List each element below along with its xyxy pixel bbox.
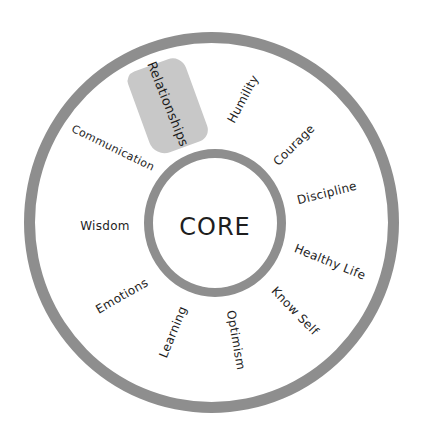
core-values-wheel: CORE Relationships Humility Courage Disc… — [0, 0, 426, 436]
core-label: CORE — [179, 213, 251, 241]
label-wisdom: Wisdom — [80, 219, 130, 233]
